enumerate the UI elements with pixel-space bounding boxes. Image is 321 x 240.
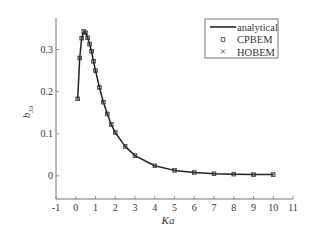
x-tick-label: -1 (52, 202, 60, 213)
y-tick-label: 0.1 (41, 128, 54, 139)
legend-label-hobem: HOBEM (237, 47, 276, 58)
x-tick-label: 2 (113, 202, 118, 213)
x-tick-label: 5 (172, 202, 177, 213)
chart: -10123456789101100.10.20.3 Ka b33 analyt… (0, 0, 321, 240)
y-axis-title: b33 (20, 105, 35, 118)
y-tick-label: 0 (48, 170, 53, 181)
legend-label-cpbem: CPBEM (237, 34, 273, 45)
x-tick-label: 4 (152, 202, 157, 213)
y-axis-title-subscript: 33 (27, 105, 35, 113)
x-tick-label: 8 (231, 202, 236, 213)
y-tick-label: 0.3 (41, 44, 54, 55)
x-tick-label: 1 (93, 202, 98, 213)
x-axis-title: Ka (161, 214, 175, 226)
x-tick-label: 6 (192, 202, 197, 213)
legend-label-analytical: analytical (237, 22, 278, 33)
x-tick-label: 10 (268, 202, 278, 213)
x-tick-label: 0 (73, 202, 78, 213)
legend: analytical CPBEM HOBEM (205, 19, 278, 58)
svg-text:b33: b33 (20, 105, 35, 118)
x-tick-label: 9 (251, 202, 256, 213)
y-tick-label: 0.2 (41, 86, 54, 97)
x-tick-label: 7 (212, 202, 217, 213)
x-tick-label: 3 (133, 202, 138, 213)
x-tick-label: 11 (288, 202, 298, 213)
